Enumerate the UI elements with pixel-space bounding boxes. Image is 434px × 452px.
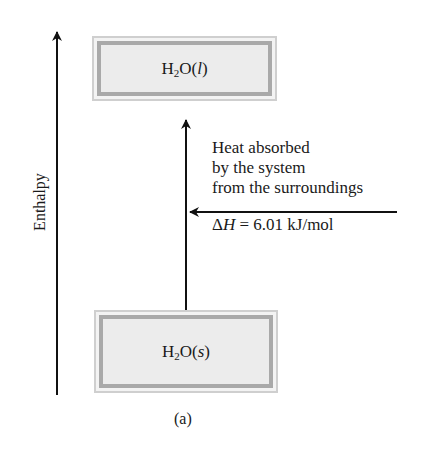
- enthalpy-diagram: Enthalpy H2O(l) H2O(s) Heat absorbed by …: [0, 0, 434, 452]
- heat-absorbed-annotation: Heat absorbed by the system from the sur…: [212, 138, 363, 198]
- lower-state-box: H2O(s): [94, 310, 278, 393]
- enthalpy-axis-label: Enthalpy: [31, 166, 49, 238]
- lower-state-formula: H2O(s): [162, 342, 210, 362]
- annotation-line-2: by the system: [212, 158, 363, 178]
- annotation-line-3: from the surroundings: [212, 178, 363, 198]
- upper-state-formula: H2O(l): [161, 59, 207, 79]
- delta-h-value: ΔH = 6.01 kJ/mol: [212, 215, 334, 235]
- annotation-line-1: Heat absorbed: [212, 138, 363, 158]
- upper-state-box: H2O(l): [92, 36, 277, 101]
- figure-caption: (a): [174, 410, 192, 428]
